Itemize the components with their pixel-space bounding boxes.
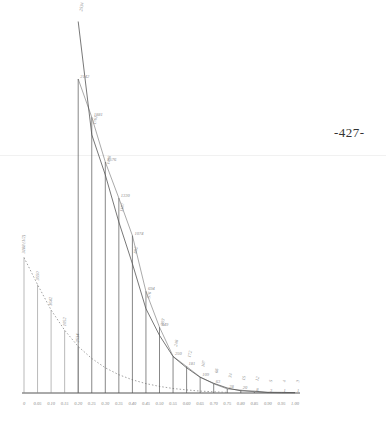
bar-value-label: 3188 (1/2) (21, 234, 26, 253)
point-value-label: 15 (241, 375, 247, 381)
x-tick-label: 0.15 (61, 401, 70, 406)
x-tick-label: 0.75 (223, 401, 232, 406)
x-tick-label: 0.45 (142, 401, 151, 406)
point-value-label: 34 (227, 372, 233, 378)
x-tick-label: 0.10 (47, 401, 56, 406)
x-tick-label: 0.80 (237, 401, 246, 406)
x-tick-label: 0.90 (264, 401, 273, 406)
point-value-label: 1330 (121, 193, 131, 198)
point-value-label: 250 (175, 351, 183, 356)
lower-curve (78, 79, 295, 393)
frequency-chart: 00.050.100.150.200.250.300.350.400.450.5… (0, 0, 386, 422)
x-tick-label: 0.60 (183, 401, 192, 406)
x-tick-label: 0.35 (115, 401, 124, 406)
point-value-label: 12 (254, 375, 260, 381)
point-value-label: 3 (270, 388, 273, 393)
bar-value-label: 1642 (48, 296, 53, 306)
point-value-label: 63 (216, 379, 221, 384)
x-tick-label: 0.95 (278, 401, 287, 406)
point-value-label: 1576 (107, 157, 117, 162)
page-number: -427- (334, 125, 365, 141)
x-tick-label: 1.00 (291, 401, 300, 406)
point-value-label: 248 (173, 339, 179, 347)
x-tick-label: 0.05 (34, 401, 43, 406)
x-tick-label: 0.55 (169, 401, 178, 406)
point-value-label: 172 (187, 350, 193, 358)
point-value-label: 1 (283, 388, 285, 393)
x-tick-label: 0.30 (101, 401, 110, 406)
point-value-label: 2142 (80, 74, 90, 79)
point-value-label: 2534 (78, 1, 85, 11)
x-tick-label: 0 (23, 401, 26, 406)
dotted-decay-curve (24, 258, 227, 393)
bar-value-label: 3550 (35, 271, 40, 281)
point-value-label: 694 (148, 286, 156, 291)
bar-value-label: 1052 (62, 317, 67, 327)
point-value-label: 8 (256, 387, 259, 392)
point-value-label: 109 (202, 372, 210, 377)
point-value-label: 3 (295, 379, 300, 383)
x-tick-label: 0.20 (74, 401, 83, 406)
point-value-label: 107 (200, 359, 206, 367)
upper-curve (78, 22, 295, 393)
point-value-label: 1074 (134, 231, 144, 236)
x-tick-label: 0.50 (156, 401, 165, 406)
bar-value-label: 2534 (75, 333, 80, 343)
point-value-label: 5 (268, 379, 273, 383)
point-value-label: 20 (243, 385, 248, 390)
point-value-label: 1881 (94, 112, 103, 117)
x-tick-label: 0.25 (88, 401, 97, 406)
point-value-label: 4 (282, 379, 287, 383)
x-tick-label: 0.85 (250, 401, 259, 406)
x-tick-label: 0.65 (196, 401, 205, 406)
x-tick-label: 0.40 (128, 401, 137, 406)
point-value-label: 66 (214, 367, 220, 373)
point-value-label: 28 (229, 384, 234, 389)
point-value-label: 181 (189, 361, 196, 366)
point-value-label: 1 (297, 388, 299, 393)
x-tick-label: 0.70 (210, 401, 219, 406)
point-value-label: 449 (162, 322, 170, 327)
